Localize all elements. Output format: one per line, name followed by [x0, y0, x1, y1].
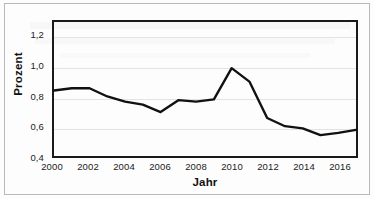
y-tick-label: 0,6 — [0, 121, 44, 132]
x-axis-title: Jahr — [52, 176, 358, 188]
x-tick-label: 2008 — [185, 161, 207, 172]
line-series-svg — [54, 22, 356, 156]
y-axis-tick-labels: 0,40,60,81,01,2 — [0, 20, 48, 158]
x-tick-label: 2006 — [149, 161, 171, 172]
x-tick-label: 2012 — [257, 161, 279, 172]
x-axis-tick-labels: 200020022004200620082010201220142016 — [52, 161, 358, 175]
y-tick-label: 1,2 — [0, 29, 44, 40]
x-tick-label: 2002 — [77, 161, 99, 172]
y-tick-label: 1,0 — [0, 60, 44, 71]
x-tick-label: 2014 — [293, 161, 315, 172]
x-tick-label: 2004 — [113, 161, 135, 172]
x-tick-label: 2000 — [41, 161, 63, 172]
data-line — [54, 68, 356, 135]
x-tick-label: 2016 — [329, 161, 351, 172]
y-tick-label: 0,4 — [0, 152, 44, 163]
chart-figure: Prozent 0,40,60,81,01,2 2000200220042006… — [0, 0, 374, 199]
x-tick-label: 2010 — [221, 161, 243, 172]
y-tick-label: 0,8 — [0, 91, 44, 102]
plot-area — [52, 20, 358, 158]
